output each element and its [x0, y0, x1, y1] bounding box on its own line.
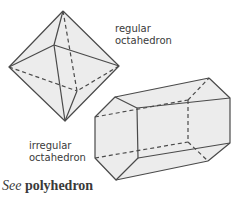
regular-octahedron-label: regular octahedron [115, 23, 172, 47]
label-line: octahedron [115, 35, 172, 47]
label-line: irregular [29, 140, 86, 152]
see-also-reference: See polyhedron [2, 178, 93, 194]
irregular-octahedron [95, 78, 230, 180]
label-line: octahedron [29, 152, 86, 164]
see-prefix: See [2, 178, 21, 193]
label-line: regular [115, 23, 172, 35]
see-also-link[interactable]: polyhedron [25, 178, 93, 193]
regular-octahedron [9, 11, 119, 121]
irregular-octahedron-label: irregular octahedron [29, 140, 86, 164]
